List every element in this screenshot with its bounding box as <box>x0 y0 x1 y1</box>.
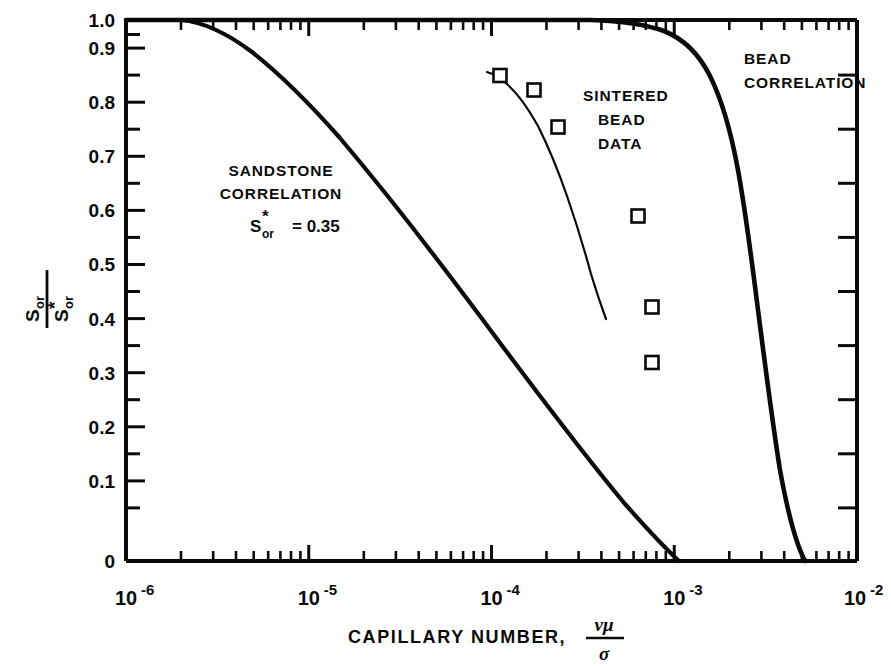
y-axis-right-ticks <box>838 75 857 508</box>
y-tick-label: 0 <box>104 551 115 572</box>
annotation-sandstone-correlation: SANDSTONE CORRELATION S or * = 0.35 <box>220 162 342 241</box>
y-axis-ticks <box>126 35 145 562</box>
data-point-marker <box>646 301 659 314</box>
y-tick-label: 0.5 <box>89 254 116 275</box>
annotation-sintered-bead-data: SINTERED BEAD DATA <box>583 87 669 152</box>
y-tick-label: 0.2 <box>89 417 115 438</box>
x-tick-label-group: 10 -4 <box>480 581 520 609</box>
bead-correlation-curve <box>126 20 805 561</box>
y-tick-label: 0.9 <box>89 38 115 59</box>
y-tick-label: 0.8 <box>89 92 115 113</box>
x-tick-base: 10 <box>844 587 866 609</box>
x-axis-top-ticks <box>181 20 849 36</box>
plot-frame <box>126 20 857 561</box>
y-axis-title: S or S or * <box>22 270 76 328</box>
x-tick-label-group: 10 -6 <box>115 581 154 609</box>
sor-superscript: * <box>262 207 269 226</box>
annotation-line: BEAD <box>744 50 792 67</box>
y-tick-label: 0.1 <box>89 471 116 492</box>
x-tick-exponent: -2 <box>870 581 883 598</box>
data-point-marker <box>552 121 565 134</box>
annotation-line: CORRELATION <box>220 185 342 202</box>
data-point-marker <box>528 84 541 97</box>
data-point-marker <box>494 69 507 82</box>
y-tick-label: 1.0 <box>89 10 115 31</box>
annotation-line: DATA <box>598 135 642 152</box>
x-axis-tick-labels: 10 -6 10 -5 10 -4 10 -3 10 -2 <box>115 581 883 609</box>
x-tick-exponent: -4 <box>507 581 521 598</box>
x-tick-label-group: 10 -2 <box>844 581 883 609</box>
y-axis-numerator-symbol: S <box>22 309 43 322</box>
annotation-line: CORRELATION <box>744 74 866 91</box>
x-axis-title: CAPILLARY NUMBER, vμ σ <box>348 614 624 664</box>
x-axis-title-text: CAPILLARY NUMBER, <box>348 627 566 647</box>
y-tick-label: 0.6 <box>89 200 115 221</box>
x-tick-base: 10 <box>480 587 502 609</box>
y-axis-denominator-superscript: * <box>44 301 65 309</box>
x-tick-base: 10 <box>298 587 320 609</box>
annotation-line: SANDSTONE <box>228 162 333 179</box>
x-tick-base: 10 <box>663 587 685 609</box>
y-axis-denominator-symbol: S <box>51 309 72 322</box>
x-tick-label-group: 10 -5 <box>298 581 337 609</box>
x-tick-exponent: -6 <box>141 581 154 598</box>
y-axis-tick-labels: 0 0.1 0.2 0.3 0.4 0.5 0.6 0.7 0.8 0.9 1.… <box>89 10 116 572</box>
x-axis-ticks <box>126 545 857 561</box>
y-tick-label: 0.3 <box>89 363 115 384</box>
data-point-marker <box>632 210 645 223</box>
sintered-bead-fit-curve <box>487 72 606 319</box>
x-tick-base: 10 <box>115 587 137 609</box>
annotation-bead-correlation: BEAD CORRELATION <box>744 50 866 91</box>
x-axis-fraction-numerator: vμ <box>595 614 614 635</box>
y-tick-label: 0.4 <box>89 309 116 330</box>
x-tick-exponent: -3 <box>689 581 702 598</box>
sor-symbol: S <box>250 217 261 236</box>
data-point-marker <box>646 356 659 369</box>
x-axis-fraction-denominator: σ <box>599 643 610 664</box>
capillary-desaturation-chart: 0 0.1 0.2 0.3 0.4 0.5 0.6 0.7 0.8 0.9 1.… <box>0 0 891 667</box>
sor-value: = 0.35 <box>292 217 340 236</box>
sor-subscript: or <box>262 227 274 241</box>
y-axis-title-denominator: S or * <box>44 296 76 322</box>
figure-page: 0 0.1 0.2 0.3 0.4 0.5 0.6 0.7 0.8 0.9 1.… <box>0 0 891 667</box>
annotation-line: SINTERED <box>583 87 669 104</box>
x-tick-label-group: 10 -3 <box>663 581 702 609</box>
annotation-line: BEAD <box>598 111 646 128</box>
y-tick-label: 0.7 <box>89 146 115 167</box>
x-axis-title-fraction: vμ σ <box>586 614 624 664</box>
x-tick-exponent: -5 <box>324 581 337 598</box>
sandstone-formula: S or * = 0.35 <box>250 207 340 241</box>
